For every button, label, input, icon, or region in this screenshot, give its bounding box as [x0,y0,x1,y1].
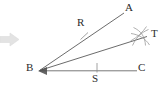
label-R: R [77,17,84,28]
label-A: A [125,2,133,13]
geometry-figure: A R T B S C [0,0,168,87]
label-C: C [138,62,145,73]
pointer-arrow-icon [0,33,19,46]
label-T: T [151,28,158,39]
ray-BT [40,37,148,71]
label-B: B [26,62,33,73]
compass-arc-marks [131,27,150,46]
figure-vector-layer [0,0,168,87]
label-S: S [92,73,98,84]
